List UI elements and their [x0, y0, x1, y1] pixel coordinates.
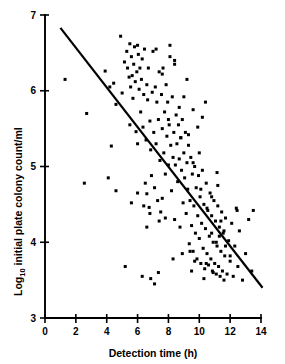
data-point — [212, 271, 215, 274]
data-point — [202, 277, 205, 280]
data-point — [174, 163, 177, 166]
data-point — [214, 220, 217, 223]
data-point — [108, 85, 111, 88]
data-point — [128, 123, 131, 126]
data-point — [175, 142, 178, 145]
data-point — [152, 50, 155, 53]
y-axis-title: Log10 initial plate colony count/ml — [12, 127, 27, 296]
data-point — [189, 156, 192, 159]
data-point — [173, 59, 176, 62]
data-point — [161, 73, 164, 76]
y-tick-label: 5 — [30, 161, 36, 172]
data-point — [104, 70, 107, 73]
data-point — [184, 131, 187, 134]
data-point — [221, 270, 224, 273]
data-point — [151, 91, 154, 94]
data-point — [216, 245, 219, 248]
data-point — [192, 161, 195, 164]
data-point — [200, 222, 203, 225]
data-point — [168, 55, 171, 58]
data-point — [199, 195, 202, 198]
data-point — [143, 48, 146, 51]
y-tick-label: 3 — [30, 313, 36, 324]
data-point — [210, 232, 213, 235]
data-point — [201, 116, 204, 119]
data-point — [209, 257, 212, 260]
data-point — [213, 262, 216, 265]
data-point — [138, 67, 141, 70]
data-point — [199, 188, 202, 191]
data-point — [147, 67, 150, 70]
y-axis-title-suffix: initial plate colony count/ml — [12, 127, 24, 268]
data-point — [168, 123, 171, 126]
regression-line — [60, 28, 262, 288]
data-point — [141, 126, 144, 129]
data-point — [124, 265, 127, 268]
data-point — [196, 126, 199, 129]
data-point — [162, 151, 165, 154]
y-axis-title-subscript: 10 — [18, 268, 27, 276]
data-point — [161, 197, 164, 200]
data-point — [229, 254, 232, 257]
data-point — [132, 63, 135, 66]
data-point — [138, 88, 141, 91]
data-point — [114, 103, 117, 106]
data-point — [183, 176, 186, 179]
data-point — [154, 85, 157, 88]
data-point — [212, 241, 215, 244]
data-point — [137, 53, 140, 56]
data-point — [198, 237, 201, 240]
data-point — [161, 127, 164, 130]
data-point — [110, 145, 113, 148]
data-point — [171, 95, 174, 98]
data-point — [198, 151, 201, 154]
data-point — [192, 204, 195, 207]
data-point — [178, 157, 181, 160]
data-point — [233, 245, 236, 248]
data-point — [252, 209, 255, 212]
data-point — [201, 169, 204, 172]
data-point — [187, 144, 190, 147]
data-point — [216, 171, 219, 174]
data-point — [112, 82, 115, 85]
data-point — [216, 184, 219, 187]
y-axis-ticks: 34567 — [30, 10, 49, 324]
data-point — [119, 35, 122, 38]
data-point — [130, 201, 133, 204]
x-tick-label: 2 — [73, 326, 79, 337]
data-point — [191, 173, 194, 176]
x-tick-label: 4 — [104, 326, 110, 337]
data-point — [177, 123, 180, 126]
data-point — [157, 118, 160, 121]
x-tick-label: 10 — [194, 326, 206, 337]
x-tick-label: 12 — [225, 326, 237, 337]
data-point — [83, 182, 86, 185]
data-point — [180, 169, 183, 172]
data-point — [128, 76, 131, 79]
data-point — [164, 217, 167, 220]
data-point — [224, 245, 227, 248]
data-point — [162, 67, 165, 70]
chart-canvas: Log10 initial plate colony count/ml 3456… — [0, 0, 285, 364]
data-point — [170, 189, 173, 192]
data-point — [135, 70, 138, 73]
data-point — [153, 282, 156, 285]
data-point — [178, 106, 181, 109]
data-point — [158, 159, 161, 162]
data-point — [193, 165, 196, 168]
data-point — [182, 201, 185, 204]
data-point — [134, 80, 137, 83]
data-point — [129, 85, 132, 88]
data-point — [165, 83, 168, 86]
data-point — [230, 222, 233, 225]
data-point — [160, 93, 163, 96]
data-point — [141, 57, 144, 60]
data-point — [168, 44, 171, 47]
data-point — [195, 186, 198, 189]
data-point — [148, 120, 151, 123]
data-point — [203, 267, 206, 270]
data-point — [185, 212, 188, 215]
data-point — [199, 262, 202, 265]
y-tick-label: 6 — [30, 85, 36, 96]
data-point — [166, 101, 169, 104]
